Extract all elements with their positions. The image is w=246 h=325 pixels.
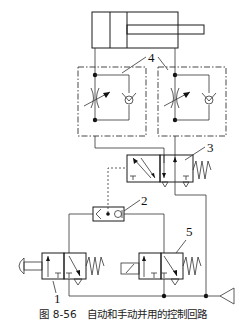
label-4: 4 xyxy=(148,50,155,65)
flow-control-valve-left xyxy=(78,67,146,136)
label-2: 2 xyxy=(141,193,148,208)
directional-valve-3 xyxy=(127,155,211,187)
label-5: 5 xyxy=(186,224,193,239)
flow-control-valve-right xyxy=(158,67,226,136)
label-1: 1 xyxy=(54,291,61,306)
manual-valve-1 xyxy=(19,253,104,285)
cylinder xyxy=(92,12,204,48)
air-supply-icon xyxy=(220,288,234,304)
solenoid-valve-5 xyxy=(121,253,201,285)
shuttle-valve-2 xyxy=(93,207,124,221)
pneumatic-circuit-diagram: 4 3 2 xyxy=(0,0,246,325)
figure-caption: 图 8-56 自动和手动并用的控制回路 xyxy=(0,306,246,321)
label-3: 3 xyxy=(207,140,214,155)
